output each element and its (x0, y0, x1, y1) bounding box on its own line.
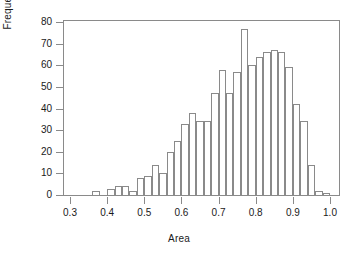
histogram-bar (129, 191, 136, 195)
histogram-bar (219, 70, 226, 195)
y-tick-label-50: 50 (0, 81, 52, 92)
histogram-bar (152, 165, 159, 195)
y-tick-20 (56, 152, 63, 153)
y-tick-80 (56, 22, 63, 23)
histogram-bar (323, 193, 330, 195)
x-tick-label-1.0: 1.0 (310, 207, 350, 218)
histogram-bar (159, 173, 166, 195)
histogram-bar (144, 176, 151, 195)
histogram-bar (315, 191, 322, 195)
y-tick-40 (56, 109, 63, 110)
x-axis-title: Area (0, 233, 358, 244)
x-tick-0.9 (293, 197, 294, 204)
histogram-bar (293, 104, 300, 195)
x-tick-0.4 (107, 197, 108, 204)
histogram-bar (167, 152, 174, 195)
histogram-bar (204, 121, 211, 195)
x-tick-label-0.5: 0.5 (124, 207, 164, 218)
y-tick-label-40: 40 (0, 103, 52, 114)
histogram-bar (137, 178, 144, 195)
histogram-bar (174, 141, 181, 195)
y-tick-0 (56, 195, 63, 196)
y-tick-label-80: 80 (0, 16, 52, 27)
x-tick-0.3 (70, 197, 71, 204)
histogram-bar (271, 50, 278, 195)
histogram-bar (308, 165, 315, 195)
histogram-bar (248, 65, 255, 195)
x-tick-label-0.3: 0.3 (50, 207, 90, 218)
x-tick-label-0.6: 0.6 (161, 207, 201, 218)
y-tick-30 (56, 130, 63, 131)
histogram-bar (107, 189, 114, 195)
x-tick-label-0.8: 0.8 (236, 207, 276, 218)
histogram-bar (278, 52, 285, 195)
y-tick-label-30: 30 (0, 124, 52, 135)
x-tick-label-0.7: 0.7 (199, 207, 239, 218)
y-tick-label-20: 20 (0, 146, 52, 157)
histogram-bar (181, 124, 188, 195)
x-tick-0.7 (219, 197, 220, 204)
histogram-bar (122, 186, 129, 195)
histogram-bar (285, 67, 292, 195)
x-tick-label-0.4: 0.4 (87, 207, 127, 218)
x-tick-label-0.9: 0.9 (273, 207, 313, 218)
histogram-bar (300, 121, 307, 195)
histogram-bar (241, 29, 248, 196)
histogram-chart: Frequency 01020304050607080 0.30.40.50.6… (0, 0, 358, 254)
histogram-bar (115, 186, 122, 195)
y-axis-title: Frequency (2, 0, 13, 60)
y-tick-label-0: 0 (0, 189, 52, 200)
histogram-bar (226, 93, 233, 195)
histogram-bar (256, 57, 263, 195)
y-tick-70 (56, 44, 63, 45)
x-tick-0.5 (144, 197, 145, 204)
y-tick-label-70: 70 (0, 38, 52, 49)
histogram-bar (196, 121, 203, 195)
y-tick-label-10: 10 (0, 167, 52, 178)
x-tick-0.8 (256, 197, 257, 204)
x-tick-1.0 (330, 197, 331, 204)
y-tick-label-60: 60 (0, 59, 52, 70)
y-tick-50 (56, 87, 63, 88)
y-tick-60 (56, 65, 63, 66)
x-tick-0.6 (181, 197, 182, 204)
histogram-bar (92, 191, 99, 195)
histogram-bar (263, 52, 270, 195)
histogram-bars (64, 21, 339, 195)
histogram-bar (189, 113, 196, 195)
histogram-bar (211, 93, 218, 195)
histogram-bar (233, 72, 240, 195)
y-tick-10 (56, 173, 63, 174)
